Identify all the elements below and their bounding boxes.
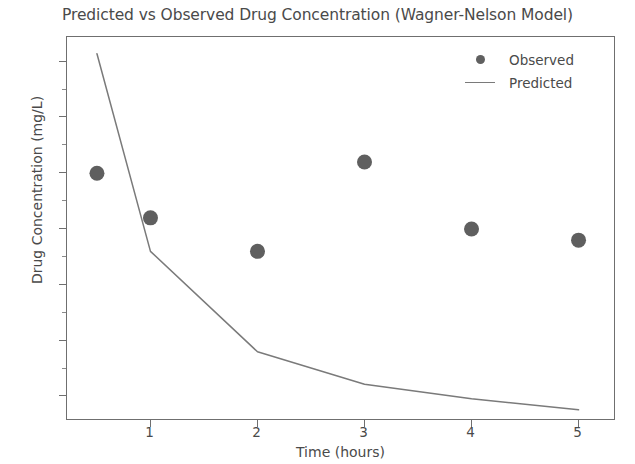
predicted-line-series: [97, 54, 579, 410]
observed-data-point: [250, 244, 265, 259]
x-tick-label: 1: [145, 424, 154, 440]
y-tick-mark: [59, 395, 66, 396]
legend-marker-dot-icon: [457, 55, 503, 64]
legend-label-predicted: Predicted: [503, 75, 572, 91]
x-tick-label: 4: [466, 424, 475, 440]
y-tick-minor-mark: [62, 368, 66, 369]
y-tick-mark: [59, 340, 66, 341]
y-tick-mark: [59, 61, 66, 62]
y-axis-label: Drug Concentration (mg/L): [29, 70, 45, 310]
chart-figure: Predicted vs Observed Drug Concentration…: [0, 0, 635, 464]
legend-item-predicted: Predicted: [457, 71, 601, 94]
observed-data-point: [571, 233, 586, 248]
observed-data-point: [464, 222, 479, 237]
y-tick-minor-mark: [62, 312, 66, 313]
chart-title: Predicted vs Observed Drug Concentration…: [0, 6, 635, 24]
y-tick-mark: [59, 116, 66, 117]
legend-line-icon: [457, 82, 503, 83]
observed-data-point: [357, 155, 372, 170]
y-tick-minor-mark: [62, 200, 66, 201]
legend-label-observed: Observed: [503, 52, 574, 68]
x-tick-label: 3: [359, 424, 368, 440]
observed-data-point: [143, 210, 158, 225]
observed-point-series: [89, 155, 586, 259]
y-tick-mark: [59, 228, 66, 229]
x-axis-label: Time (hours): [66, 444, 615, 460]
y-tick-minor-mark: [62, 89, 66, 90]
y-tick-mark: [59, 284, 66, 285]
x-tick-label: 5: [573, 424, 582, 440]
legend-item-observed: Observed: [457, 48, 601, 71]
y-tick-minor-mark: [62, 144, 66, 145]
y-tick-minor-mark: [62, 256, 66, 257]
y-tick-mark: [59, 172, 66, 173]
observed-data-point: [89, 166, 104, 181]
x-tick-label: 2: [252, 424, 261, 440]
chart-legend: Observed Predicted: [455, 44, 603, 98]
